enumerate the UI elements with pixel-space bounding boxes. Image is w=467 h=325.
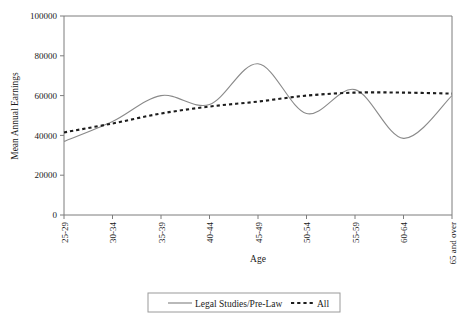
x-tick-label: 65 and over [448, 222, 458, 265]
y-tick-group: 020000400006000080000100000 [30, 11, 64, 220]
legend-label-all: All [317, 299, 330, 309]
x-tick-label: 60-64 [399, 222, 409, 243]
y-axis-title: Mean Annual Earnings [10, 72, 20, 160]
x-tick-label: 40-44 [205, 222, 215, 243]
series-line-all [64, 92, 452, 132]
chart-svg: 020000400006000080000100000 25-2930-3435… [0, 0, 467, 325]
x-tick-label: 35-39 [157, 222, 167, 243]
y-tick-label: 0 [53, 210, 58, 220]
y-tick-label: 40000 [35, 131, 58, 141]
y-tick-label: 60000 [35, 91, 58, 101]
y-tick-label: 20000 [35, 170, 58, 180]
x-tick-label: 25-29 [60, 222, 70, 243]
x-tick-label: 45-49 [254, 222, 264, 243]
y-tick-label: 80000 [35, 51, 58, 61]
x-tick-label: 55-59 [351, 222, 361, 243]
series-line-legal-studies-pre-law [64, 64, 452, 142]
x-tick-label: 50-54 [302, 222, 312, 243]
x-tick-label: 30-34 [108, 222, 118, 243]
y-tick-label: 100000 [30, 11, 58, 21]
legend: Legal Studies/Pre-Law All [148, 293, 340, 312]
chart-figure: 020000400006000080000100000 25-2930-3435… [0, 0, 467, 325]
legend-label-legal-studies-pre-law: Legal Studies/Pre-Law [195, 299, 282, 309]
x-axis-title: Age [250, 254, 266, 264]
